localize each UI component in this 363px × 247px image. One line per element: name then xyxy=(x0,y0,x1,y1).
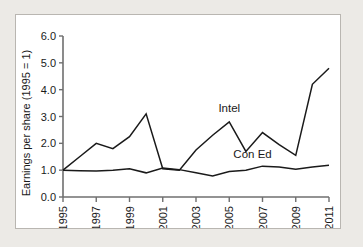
y-tick-label: 1.0 xyxy=(41,164,56,176)
figure-panel: 0.01.02.03.04.05.06.0 199519971999200120… xyxy=(15,14,341,229)
y-tick-label: 5.0 xyxy=(41,57,56,69)
y-tick-label: 0.0 xyxy=(41,191,56,203)
series-lines xyxy=(63,68,329,176)
series-line-con-ed xyxy=(63,165,329,176)
x-tick-label: 1999 xyxy=(124,206,136,228)
y-axis: 0.01.02.03.04.05.06.0 xyxy=(41,30,63,203)
x-tick-label: 2007 xyxy=(257,206,269,228)
x-tick-label: 2001 xyxy=(157,206,169,228)
series-label-con-ed: Con Ed xyxy=(233,148,271,160)
x-tick-label: 2003 xyxy=(190,206,202,228)
series-label-intel: Intel xyxy=(218,102,240,114)
y-axis-title: Earnings per share (1995 = 1) xyxy=(20,50,32,196)
x-tick-label: 2009 xyxy=(290,206,302,228)
line-chart: 0.01.02.03.04.05.06.0 199519971999200120… xyxy=(16,15,340,228)
x-axis: 199519971999200120032005200720092011 xyxy=(57,197,335,228)
x-tick-label: 2005 xyxy=(223,206,235,228)
y-tick-label: 4.0 xyxy=(41,84,56,96)
x-tick-label: 2011 xyxy=(323,206,335,228)
y-tick-label: 2.0 xyxy=(41,137,56,149)
y-tick-label: 3.0 xyxy=(41,111,56,123)
series-annotations: IntelCon Ed xyxy=(218,102,271,160)
y-tick-label: 6.0 xyxy=(41,30,56,42)
x-tick-label: 1995 xyxy=(57,206,69,228)
series-line-intel xyxy=(63,68,329,170)
x-tick-label: 1997 xyxy=(90,206,102,228)
